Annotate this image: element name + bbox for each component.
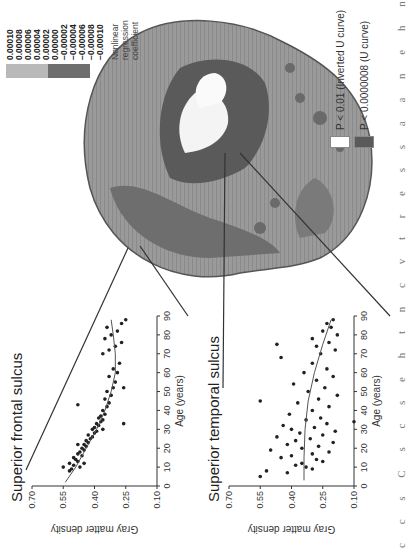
colorbar-tick: −0.00010 xyxy=(96,24,105,60)
colorbar-title: Nonlinear regression coefficient xyxy=(110,0,140,60)
colorbar: 0.00010 0.00008 0.00006 0.00004 0.00002 … xyxy=(6,6,206,78)
legend-swatch-dark xyxy=(354,136,374,148)
rotated-figure: c c s C s c s e h t n c v t r e s s a a … xyxy=(0,0,410,548)
pointer-line-frontal-1 xyxy=(26,248,128,470)
legend-item-inverted-u: P < 0.01 (Inverted U curve) xyxy=(330,10,350,148)
pointer-line-temporal-1 xyxy=(240,153,390,316)
colorbar-tick-labels: 0.00010 0.00008 0.00006 0.00004 0.00002 … xyxy=(6,24,105,60)
colorbar-negative-segment xyxy=(48,64,90,78)
legend-label: P < 0.0000008 (U curve) xyxy=(359,21,370,130)
legend-item-u: P < 0.0000008 (U curve) xyxy=(354,21,374,148)
figure-stage: c c s C s c s e h t n c v t r e s s a a … xyxy=(0,0,410,548)
colorbar-positive-segment xyxy=(6,64,48,78)
legend-label: P < 0.01 (Inverted U curve) xyxy=(335,10,346,130)
pointer-line-temporal-2 xyxy=(223,153,225,388)
legend-swatch-white xyxy=(330,136,350,148)
pointer-line-frontal-2 xyxy=(140,246,188,316)
